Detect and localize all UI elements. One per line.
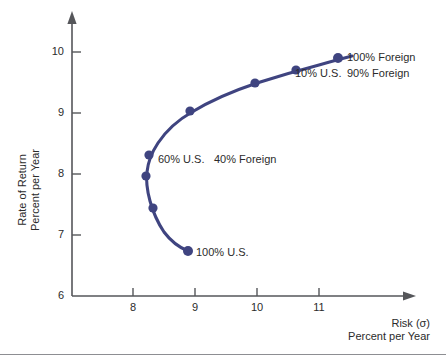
y-axis (67, 11, 76, 296)
x-axis-arrowhead (403, 291, 416, 300)
y-tick-label-9: 9 (58, 106, 64, 118)
x-tick-label-11: 11 (313, 301, 324, 313)
y-tick-label-10: 10 (52, 45, 64, 57)
x-tick-label-9: 9 (192, 301, 198, 313)
y-axis-title-line2: Percent per Year (29, 149, 41, 231)
data-point-3[interactable] (141, 171, 150, 180)
x-axis-title-line1: Risk (σ) (391, 317, 430, 329)
annotation-10pct-us: 10% U.S. (295, 67, 341, 79)
x-axis-title-line2: Percent per Year (348, 330, 430, 342)
efficient-frontier-chart-figure: 10 9 8 7 6 8 9 10 11 Rate of Return Perc… (0, 0, 446, 361)
data-point-100pct-us[interactable] (183, 246, 193, 256)
annotation-60pct-us: 60% U.S. (158, 153, 204, 165)
data-point-2[interactable] (148, 203, 157, 212)
data-point-60pct-us[interactable] (144, 150, 153, 159)
x-tick-label-8: 8 (130, 301, 136, 313)
y-axis-title: Rate of Return Percent per Year (16, 149, 41, 231)
data-point-100pct-foreign[interactable] (333, 53, 343, 63)
y-tick-label-8: 8 (58, 167, 64, 179)
x-axis-tick-labels: 8 9 10 11 (130, 301, 325, 313)
data-point-6[interactable] (250, 78, 259, 87)
annotation-100pct-foreign: 100% Foreign (347, 51, 416, 63)
data-point-5[interactable] (185, 106, 194, 115)
y-axis-arrowhead (67, 11, 76, 24)
y-axis-tick-labels: 10 9 8 7 6 (52, 45, 64, 301)
chart-annotations: 100% Foreign 10% U.S. 90% Foreign 60% U.… (158, 51, 416, 258)
x-tick-label-10: 10 (251, 301, 263, 313)
chart-plot-area: 10 9 8 7 6 8 9 10 11 Rate of Return Perc… (0, 0, 446, 361)
x-axis (72, 291, 416, 300)
annotation-90pct-foreign: 90% Foreign (347, 67, 409, 79)
annotation-100pct-us: 100% U.S. (196, 246, 249, 258)
annotation-40pct-foreign: 40% Foreign (214, 153, 276, 165)
y-axis-ticks (72, 52, 81, 235)
x-axis-title: Risk (σ) Percent per Year (348, 317, 430, 342)
x-axis-ticks (133, 288, 319, 296)
footer-divider (0, 354, 446, 355)
y-tick-label-7: 7 (58, 228, 64, 240)
y-axis-title-line1: Rate of Return (16, 154, 28, 226)
y-tick-label-6: 6 (58, 289, 64, 301)
